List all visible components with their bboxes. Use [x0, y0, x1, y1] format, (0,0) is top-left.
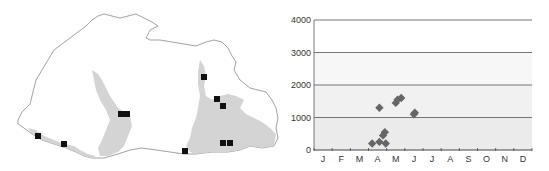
- site-marker: [214, 96, 220, 102]
- y-tick-label: 3000: [291, 48, 311, 58]
- site-marker: [227, 140, 233, 146]
- site-marker: [201, 74, 207, 80]
- x-tick-label: J: [430, 154, 435, 164]
- site-marker: [182, 148, 188, 154]
- background-band: [314, 53, 532, 86]
- x-tick-label: N: [502, 154, 509, 164]
- x-tick-label: D: [520, 154, 527, 164]
- x-tick-label: M: [392, 154, 400, 164]
- site-marker: [220, 140, 226, 146]
- y-axis: 01000200030004000: [291, 15, 311, 155]
- site-marker: [35, 133, 41, 139]
- y-tick-label: 0: [306, 145, 311, 155]
- site-marker: [220, 103, 226, 109]
- x-tick-label: O: [483, 154, 490, 164]
- background-band: [314, 118, 532, 151]
- y-tick-label: 4000: [291, 15, 311, 25]
- y-tick-label: 1000: [291, 113, 311, 123]
- map-figure: [0, 0, 285, 171]
- background-band: [314, 20, 532, 53]
- x-tick-label: J: [412, 154, 417, 164]
- x-tick-label: S: [465, 154, 471, 164]
- x-tick-label: J: [321, 154, 326, 164]
- scatter-chart: 01000200030004000 JFMAMJJASOND: [290, 0, 549, 171]
- x-tick-label: M: [356, 154, 364, 164]
- x-tick-label: A: [375, 154, 381, 164]
- site-marker: [61, 141, 67, 147]
- site-marker: [124, 111, 130, 117]
- background-band: [314, 85, 532, 118]
- x-tick-label: A: [447, 154, 453, 164]
- x-tick-label: F: [339, 154, 345, 164]
- site-marker: [118, 111, 124, 117]
- y-tick-label: 2000: [291, 80, 311, 90]
